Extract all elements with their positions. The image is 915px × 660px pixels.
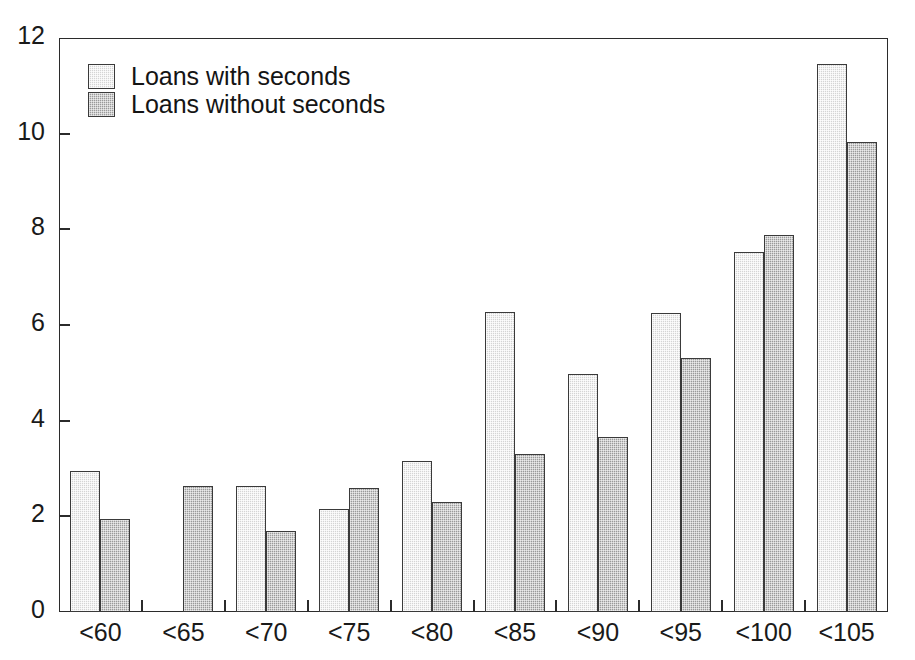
y-axis-tick-label: 6 (31, 308, 45, 337)
bar-chart-figure: 024681012 <60<65<70<75<80<85<90<95<100<1… (0, 0, 915, 660)
x-axis-tick-label: <85 (474, 618, 557, 647)
bar (183, 486, 213, 612)
x-axis-tick-label: <70 (225, 618, 308, 647)
y-axis-tick-label: 0 (31, 595, 45, 624)
bar (764, 235, 794, 612)
bar (681, 358, 711, 612)
x-axis-tick-mark (638, 600, 640, 612)
x-axis-tick-label: <65 (142, 618, 225, 647)
y-axis-tick-label: 12 (17, 21, 45, 50)
bar (734, 252, 764, 612)
x-axis-tick-mark (721, 600, 723, 612)
x-axis-tick-label: <105 (805, 618, 888, 647)
bar (568, 374, 598, 612)
bar (651, 313, 681, 612)
x-axis-tick-label: <80 (391, 618, 474, 647)
bar (847, 142, 877, 612)
legend-item-loans-with-seconds: Loans with seconds (88, 62, 418, 90)
legend-item-loans-without-seconds: Loans without seconds (88, 90, 418, 118)
x-axis-tick-mark (141, 600, 143, 612)
bar (70, 471, 100, 612)
x-axis-tick-label: <75 (308, 618, 391, 647)
bar (515, 454, 545, 612)
bar (319, 509, 349, 612)
bar (432, 502, 462, 612)
y-axis-tick-label: 8 (31, 212, 45, 241)
x-axis-tick-mark (390, 600, 392, 612)
legend-label: Loans without seconds (131, 90, 385, 119)
bar (266, 531, 296, 612)
bar (236, 486, 266, 612)
x-axis-tick-label: <60 (59, 618, 142, 647)
bar (598, 437, 628, 612)
bar (349, 488, 379, 612)
x-axis-tick-mark (804, 600, 806, 612)
y-axis-tick-label: 2 (31, 499, 45, 528)
clipped-caption-text (0, 0, 915, 4)
chart-legend: Loans with seconds Loans without seconds (88, 62, 418, 118)
bar (402, 461, 432, 612)
legend-swatch-light-gray-icon (88, 64, 115, 89)
bars-layer (59, 38, 888, 612)
y-axis-tick-label: 10 (17, 117, 45, 146)
x-axis-tick-label: <95 (639, 618, 722, 647)
x-axis-tick-mark (307, 600, 309, 612)
legend-label: Loans with seconds (131, 62, 351, 91)
x-axis-tick-label: <100 (722, 618, 805, 647)
x-axis-tick-mark (473, 600, 475, 612)
y-axis-tick-label: 4 (31, 404, 45, 433)
bar (485, 312, 515, 612)
x-axis-tick-label: <90 (556, 618, 639, 647)
bar (817, 64, 847, 612)
x-axis-tick-mark (555, 600, 557, 612)
bar (100, 519, 130, 612)
x-axis-tick-mark (224, 600, 226, 612)
legend-swatch-dark-gray-icon (88, 92, 115, 117)
